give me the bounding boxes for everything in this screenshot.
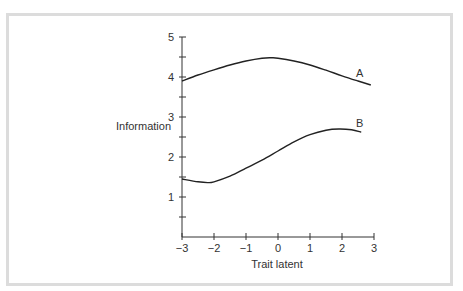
information-chart: 12345−3−2−10123 A B Information Trait la… <box>0 0 463 291</box>
y-tick-label: 2 <box>168 151 174 163</box>
x-axis-label: Trait latent <box>251 258 303 270</box>
x-tick-label: −2 <box>208 242 221 254</box>
y-tick-label: 1 <box>168 191 174 203</box>
series-b-label: B <box>356 117 363 129</box>
curve-a <box>182 58 371 85</box>
x-tick-label: 3 <box>371 242 377 254</box>
series-labels: A B <box>356 67 364 129</box>
x-tick-label: −1 <box>240 242 253 254</box>
curves <box>182 58 371 183</box>
x-tick-label: 2 <box>339 242 345 254</box>
x-tick-label: 0 <box>275 242 281 254</box>
curve-b <box>182 129 361 183</box>
y-tick-label: 5 <box>168 31 174 43</box>
tick-labels: 12345−3−2−10123 <box>168 31 377 254</box>
axes <box>179 37 374 240</box>
y-axis-label: Information <box>116 120 171 132</box>
x-tick-label: −3 <box>176 242 189 254</box>
series-a-label: A <box>356 67 364 79</box>
y-tick-label: 4 <box>168 71 174 83</box>
x-tick-label: 1 <box>307 242 313 254</box>
